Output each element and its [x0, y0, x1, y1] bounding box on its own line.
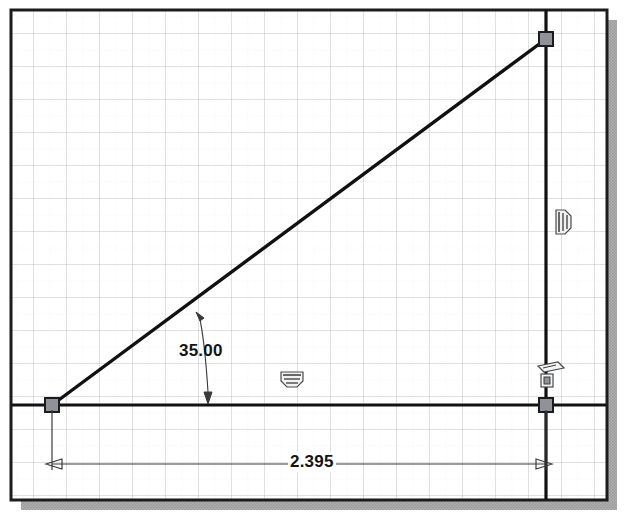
cad-sketch-window: 35.00 2.395 [0, 0, 636, 531]
vertical-constraint-icon[interactable] [556, 210, 571, 234]
sketch-grid [12, 11, 606, 499]
length-dimension-value[interactable]: 2.395 [288, 452, 336, 472]
angle-dimension-value[interactable]: 35.00 [179, 341, 223, 361]
apex-endpoint[interactable] [539, 32, 553, 46]
corner-endpoint[interactable] [539, 398, 553, 412]
horizontal-constraint-icon[interactable] [281, 372, 303, 387]
origin-endpoint[interactable] [45, 398, 59, 412]
